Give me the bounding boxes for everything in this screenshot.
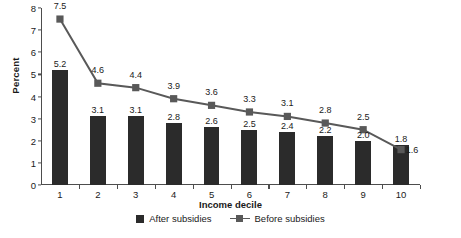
plot-area: 012345678 12345678910 5.23.13.12.82.62.5… xyxy=(41,8,420,185)
x-tick-mark xyxy=(268,185,269,189)
bar-value-label: 5.2 xyxy=(54,59,67,69)
line-marker xyxy=(208,102,215,109)
x-tick-mark xyxy=(193,185,194,189)
line-marker xyxy=(170,95,177,102)
legend-label-after-subsidies: After subsidies xyxy=(149,213,211,224)
line-value-label: 4.4 xyxy=(129,70,142,80)
bar-value-label: 2.6 xyxy=(205,116,218,126)
line-path xyxy=(60,19,401,150)
line-marker xyxy=(246,108,253,115)
line-value-label: 1.6 xyxy=(406,145,419,155)
legend-item-after-subsidies: After subsidies xyxy=(136,213,211,224)
x-tick-mark xyxy=(155,185,156,189)
x-tick-mark xyxy=(117,185,118,189)
line-series-before-subsidies xyxy=(41,8,420,185)
x-tick-mark xyxy=(382,185,383,189)
line-value-label: 7.5 xyxy=(54,1,67,11)
line-value-label: 4.6 xyxy=(92,65,105,75)
bar-value-label: 3.1 xyxy=(92,105,105,115)
line-value-label: 2.5 xyxy=(357,112,370,122)
bar-value-label: 2.0 xyxy=(357,130,370,140)
line-value-label: 3.6 xyxy=(205,87,218,97)
bar-value-label: 3.1 xyxy=(129,105,142,115)
line-marker xyxy=(397,146,404,153)
bar-value-label: 2.5 xyxy=(243,119,256,129)
line-value-label: 2.8 xyxy=(319,105,332,115)
chart-figure: Percent 012345678 12345678910 5.23.13.12… xyxy=(0,0,461,238)
legend-bar-swatch-icon xyxy=(136,215,144,223)
x-tick-mark xyxy=(231,185,232,189)
legend-label-before-subsidies: Before subsidies xyxy=(255,213,325,224)
line-marker xyxy=(56,15,63,22)
legend-item-before-subsidies: Before subsidies xyxy=(230,213,325,224)
x-axis-title: Income decile xyxy=(0,199,461,210)
bar-value-label: 1.8 xyxy=(395,134,408,144)
y-axis-title: Percent xyxy=(10,36,21,116)
line-value-label: 3.3 xyxy=(243,94,256,104)
bar-value-label: 2.8 xyxy=(167,112,180,122)
bar-value-label: 2.4 xyxy=(281,121,294,131)
x-tick-mark xyxy=(306,185,307,189)
chart-legend: After subsidies Before subsidies xyxy=(0,213,461,224)
line-marker xyxy=(284,113,291,120)
x-tick-mark xyxy=(344,185,345,189)
legend-line-swatch-icon xyxy=(230,215,250,223)
line-value-label: 3.1 xyxy=(281,98,294,108)
x-tick-mark xyxy=(420,185,421,189)
line-marker xyxy=(94,80,101,87)
line-marker xyxy=(132,84,139,91)
x-tick-mark xyxy=(79,185,80,189)
line-value-label: 3.9 xyxy=(167,81,180,91)
bar-value-label: 2.2 xyxy=(319,125,332,135)
